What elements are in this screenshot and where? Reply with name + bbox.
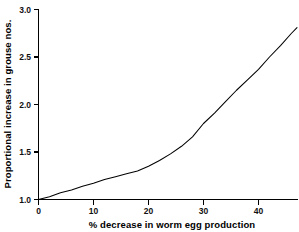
y-tick-label-2.5: 2.5 bbox=[19, 52, 31, 62]
x-axis-title: % decrease in worm egg production bbox=[89, 219, 256, 230]
y-tick-label-3.0: 3.0 bbox=[19, 5, 31, 15]
x-tick-label-20: 20 bbox=[144, 206, 154, 216]
x-tick-label-10: 10 bbox=[89, 206, 99, 216]
plot-area: 1.0 1.5 2.0 2.5 3.0 0 10 20 30 40 % decr… bbox=[0, 0, 299, 232]
y-tick-label-1.5: 1.5 bbox=[19, 147, 31, 157]
x-tick-label-40: 40 bbox=[254, 206, 264, 216]
y-tick-label-1.0: 1.0 bbox=[19, 195, 31, 205]
y-tick-label-2.0: 2.0 bbox=[19, 100, 31, 110]
x-tick-label-30: 30 bbox=[199, 206, 209, 216]
y-axis-title: Proportional increase in grouse nos. bbox=[2, 20, 13, 189]
chart-background bbox=[0, 0, 299, 232]
chart-figure: 1.0 1.5 2.0 2.5 3.0 0 10 20 30 40 % decr… bbox=[0, 0, 299, 232]
x-tick-label-0: 0 bbox=[36, 206, 41, 216]
